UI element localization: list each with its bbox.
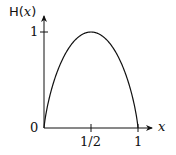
y-tick-label-1: 1 (30, 25, 38, 38)
y-axis-label-close: ) (31, 4, 36, 19)
entropy-plot (0, 0, 176, 155)
x-axis-label: x (158, 120, 165, 133)
x-tick-label-1: 1 (134, 135, 142, 148)
origin-label: 0 (30, 121, 38, 134)
entropy-curve (44, 32, 138, 128)
y-axis-label: H(x) (9, 5, 36, 18)
y-axis-label-text: H( (9, 4, 24, 19)
x-tick-label-half: 1/2 (80, 135, 101, 148)
